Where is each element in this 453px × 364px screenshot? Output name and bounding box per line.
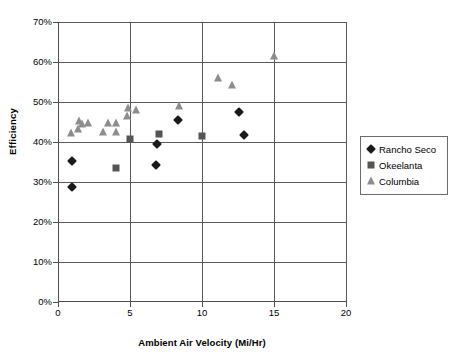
legend-item-okeelanta[interactable]: Okeelanta [365,157,444,173]
legend-label: Rancho Seco [379,144,436,155]
y-tick-label: 50% [10,97,52,107]
legend-item-columbia[interactable]: Columbia [365,173,444,189]
data-point-triangle [112,128,120,136]
x-tick-label: 20 [331,307,361,318]
x-tick-mark [274,302,275,307]
x-tick-mark [202,302,203,307]
x-tick-mark [346,302,347,307]
y-tick-label: 0% [10,297,52,307]
efficiency-vs-air-velocity-chart: Efficiency Ambient Air Velocity (Mi/Hr) … [0,0,453,364]
data-point-triangle [84,118,92,126]
legend: Rancho SecoOkeelantaColumbia [360,136,448,195]
legend-diamond-icon [365,143,377,155]
y-tick-label: 20% [10,217,52,227]
legend-triangle-icon [365,175,377,187]
y-tick-label: 40% [10,137,52,147]
data-point-square [155,131,162,138]
data-point-triangle [124,103,132,111]
data-point-triangle [214,73,222,81]
y-tick-label: 10% [10,257,52,267]
plot-frame [58,22,346,302]
data-point-triangle [112,118,120,126]
data-point-triangle [270,52,278,60]
gridline-vertical [346,22,347,302]
data-point-triangle [228,80,236,88]
legend-label: Columbia [379,176,419,187]
data-point-triangle [99,128,107,136]
legend-label: Okeelanta [379,160,422,171]
y-tick-label: 30% [10,177,52,187]
data-point-square [199,133,206,140]
x-tick-label: 0 [43,307,73,318]
data-point-triangle [132,106,140,114]
x-tick-label: 10 [187,307,217,318]
x-tick-label: 5 [115,307,145,318]
data-point-triangle [104,119,112,127]
y-tick-label: 70% [10,17,52,27]
legend-item-rancho-seco[interactable]: Rancho Seco [365,141,444,157]
data-point-square [127,135,134,142]
data-point-square [112,165,119,172]
plot-area [58,22,346,302]
x-tick-mark [130,302,131,307]
data-point-triangle [175,102,183,110]
data-point-triangle [123,111,131,119]
y-tick-label: 60% [10,57,52,67]
legend-square-icon [365,159,377,171]
x-axis-title: Ambient Air Velocity (Mi/Hr) [58,337,346,348]
x-tick-mark [58,302,59,307]
x-tick-label: 15 [259,307,289,318]
